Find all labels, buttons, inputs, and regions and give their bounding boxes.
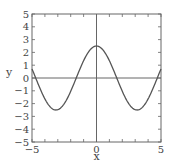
y-tick-label: 5 xyxy=(23,9,29,20)
y-tick-label: 0 xyxy=(23,73,29,84)
x-tick-label: 5 xyxy=(158,144,164,155)
reference-lines xyxy=(32,14,161,142)
y-axis-label: y xyxy=(5,66,13,79)
y-tick-label: −2 xyxy=(14,98,29,109)
y-tick-label: −1 xyxy=(14,85,29,96)
y-tick-label: −3 xyxy=(14,111,29,122)
y-tick-label: 2 xyxy=(23,47,29,58)
y-tick-label: 4 xyxy=(23,21,29,32)
line-chart: −505−5−4−3−2−1012345 x y xyxy=(0,0,169,168)
y-tick-label: 1 xyxy=(23,60,29,71)
y-tick-label: −4 xyxy=(14,124,29,135)
y-tick-label: −5 xyxy=(14,137,29,148)
y-tick-label: 3 xyxy=(23,34,29,45)
x-axis-label: x xyxy=(93,150,100,163)
